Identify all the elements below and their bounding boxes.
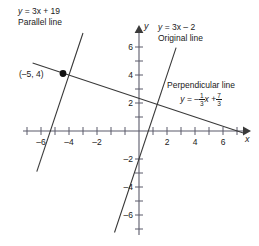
y-tick-label-4: 4 xyxy=(115,70,133,80)
parallel-line-equation: y = 3x + 19 xyxy=(18,6,62,17)
plotted-point-marker xyxy=(60,70,67,77)
perpendicular-line-equation: y = –13x +73 xyxy=(167,92,235,107)
parallel-eq-variable: y xyxy=(18,6,22,16)
point-coordinate-label: (–5, 4) xyxy=(19,69,44,79)
parallel-line-graph xyxy=(37,33,83,172)
perp-fraction-seven-thirds: 73 xyxy=(216,92,222,107)
y-tick-label-neg4: –4 xyxy=(111,182,133,192)
x-axis xyxy=(23,127,251,136)
y-tick-label-neg6: –6 xyxy=(111,210,133,220)
perp-eq-variable: y xyxy=(180,94,184,104)
original-line-annotation: y = 3x – 2 Original line xyxy=(158,22,203,44)
y-axis xyxy=(135,25,144,235)
x-tick-label-neg6: –6 xyxy=(32,137,50,147)
perp-eq-sign: = – xyxy=(187,94,199,104)
parallel-eq-expression: = 3x + 19 xyxy=(25,6,60,16)
x-tick-label-4: 4 xyxy=(186,137,204,147)
x-tick-label-2: 2 xyxy=(158,137,176,147)
y-tick-label-6: 6 xyxy=(115,42,133,52)
original-line-name: Original line xyxy=(158,33,203,44)
original-eq-expression: = 3x – 2 xyxy=(165,22,195,32)
x-tick-label-6: 6 xyxy=(214,137,232,147)
y-axis-arrow-icon xyxy=(135,25,144,33)
x-axis-label: x xyxy=(245,134,250,144)
perp-eq-x: x xyxy=(205,94,209,104)
y-tick-label-2: 2 xyxy=(115,98,133,108)
coordinate-plane-figure: y = 3x + 19 Parallel line y = 3x – 2 Ori… xyxy=(0,0,259,246)
perpendicular-line-name: Perpendicular line xyxy=(167,80,235,91)
perp-frac2-numerator: 7 xyxy=(216,92,222,100)
x-tick-label-neg2: –2 xyxy=(88,137,106,147)
original-line-equation: y = 3x – 2 xyxy=(158,22,203,33)
x-tick-label-neg4: –4 xyxy=(60,137,78,147)
perp-frac2-denominator: 3 xyxy=(216,100,222,107)
y-tick-label-neg2: –2 xyxy=(111,154,133,164)
parallel-line-annotation: y = 3x + 19 Parallel line xyxy=(18,6,62,28)
perpendicular-line-annotation: Perpendicular line y = –13x +73 xyxy=(167,80,235,107)
parallel-line-name: Parallel line xyxy=(18,17,62,28)
y-axis-label: y xyxy=(144,21,149,31)
original-eq-variable: y xyxy=(158,22,162,32)
